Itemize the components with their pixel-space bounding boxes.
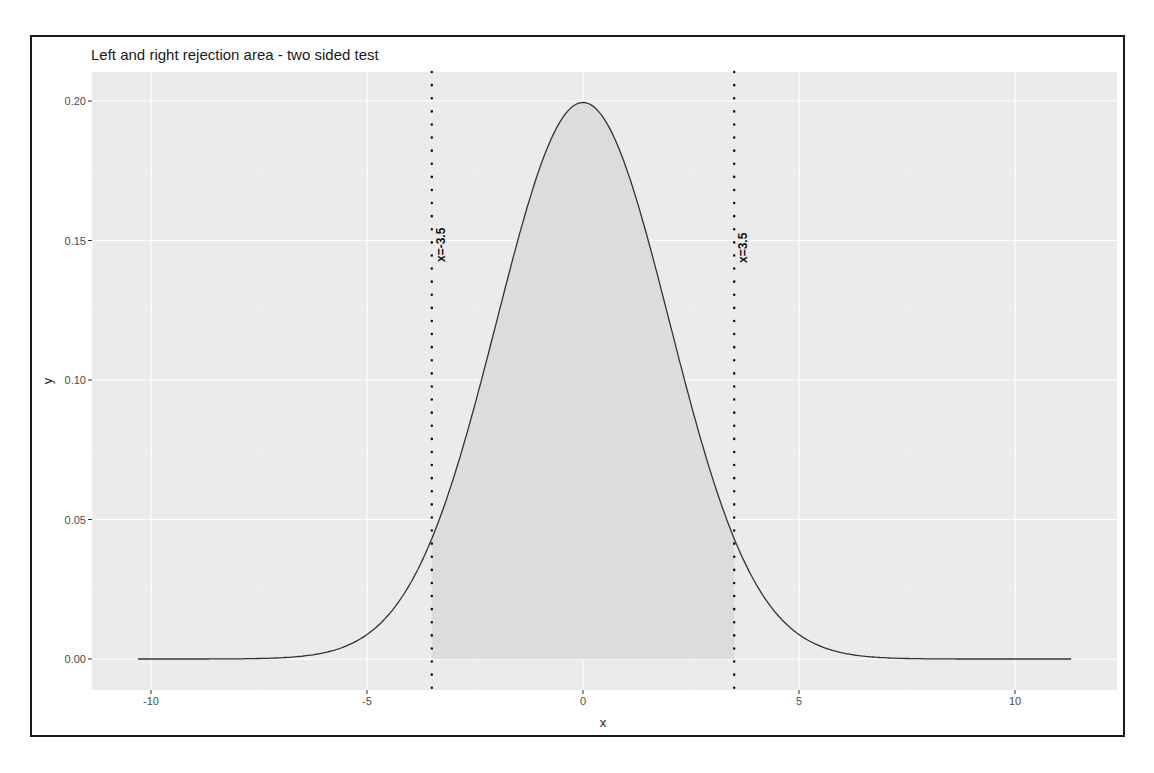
- vline-label: x=3.5: [736, 232, 750, 263]
- x-tick-label: 5: [796, 695, 802, 707]
- y-axis-label: y: [40, 377, 55, 384]
- x-tick-label: -5: [362, 695, 372, 707]
- x-tick-label: 10: [1009, 695, 1021, 707]
- y-tick-label: 0.10: [65, 374, 86, 386]
- y-tick-label: 0.05: [65, 514, 86, 526]
- y-tick-label: 0.20: [65, 95, 86, 107]
- x-axis: -10-50510: [143, 690, 1021, 707]
- y-tick-label: 0.00: [65, 653, 86, 665]
- y-axis: 0.000.050.100.150.20: [65, 95, 92, 665]
- x-axis-label: x: [600, 715, 607, 730]
- x-tick-label: 0: [580, 695, 586, 707]
- y-tick-label: 0.15: [65, 235, 86, 247]
- vline-label: x=-3.5: [434, 227, 448, 262]
- plot-area: x=-3.5x=3.5 -10-50510 0.000.050.100.150.…: [0, 0, 1154, 773]
- x-tick-label: -10: [143, 695, 159, 707]
